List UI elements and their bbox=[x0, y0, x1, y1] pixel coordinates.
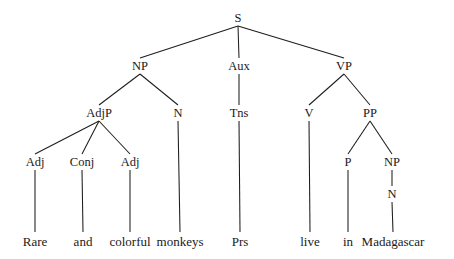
tree-node-vp: VP bbox=[336, 60, 352, 73]
tree-terminal-and: and bbox=[74, 235, 93, 248]
tree-node-aux: Aux bbox=[228, 60, 250, 73]
tree-node-n: N bbox=[387, 188, 396, 201]
tree-terminal-madagascar: Madagascar bbox=[362, 235, 425, 248]
tree-node-adjp: AdjP bbox=[86, 107, 112, 120]
tree-terminal-colorful: colorful bbox=[109, 235, 150, 248]
tree-terminal-in: in bbox=[343, 235, 353, 248]
tree-node-tns: Tns bbox=[230, 107, 249, 120]
tree-node-conj: Conj bbox=[70, 156, 94, 169]
syntax-tree-nodes: SNPAuxVPAdjPNTnsVPPAdjConjAdjPNPNRareand… bbox=[0, 0, 454, 259]
tree-node-s: S bbox=[235, 12, 242, 25]
tree-terminal-live: live bbox=[300, 235, 320, 248]
tree-terminal-rare: Rare bbox=[23, 235, 48, 248]
tree-terminal-prs: Prs bbox=[232, 235, 249, 248]
tree-node-p: P bbox=[345, 156, 352, 169]
tree-terminal-monkeys: monkeys bbox=[157, 235, 204, 248]
tree-node-np: NP bbox=[384, 156, 400, 169]
tree-node-pp: PP bbox=[363, 107, 377, 120]
tree-node-adj: Adj bbox=[26, 156, 45, 169]
tree-node-v: V bbox=[304, 107, 313, 120]
tree-node-np: NP bbox=[132, 60, 148, 73]
tree-node-n: N bbox=[173, 107, 182, 120]
tree-node-adj: Adj bbox=[121, 156, 140, 169]
